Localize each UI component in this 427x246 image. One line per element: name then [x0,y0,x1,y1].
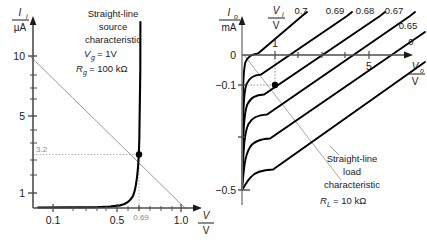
y-tick-label-5: 5 [19,110,25,122]
source-annotation: Straight-line source characteristic V g … [76,8,141,77]
y-axis-unit: µA [14,22,27,33]
rl-symbol: R [320,195,327,206]
x-axis-arrow [193,205,202,212]
x-tick-label-0p1: 0.1 [46,214,61,226]
rl-value: = 10 kΩ [333,195,366,206]
curve-label-0p67: 0.67 [385,5,404,16]
y-tick-label-0: 0 [230,49,236,61]
operating-point-y-label: 3.2 [36,145,48,154]
x-tick-label-5: 5 [366,60,372,72]
rg-symbol: R [76,63,83,74]
x-axis-symbol: V [203,210,211,221]
family-symbol: V [273,5,281,16]
y-axis-title: I i µA [12,7,29,33]
operating-point-marker [272,82,278,88]
y-axis-symbol: I [228,7,231,18]
y-tick-label-1: 1 [19,187,25,199]
y-axis-unit: mA [222,22,237,33]
left-chart-panel: 10 5 1 0.1 0.5 0.69 1.0 3.2 I i µA V V S… [0,0,215,246]
y-axis-subscript: i [26,13,28,20]
curve-label-0p68: 0.68 [356,5,375,16]
x-tick-label-1p0: 1.0 [174,214,189,226]
rg-value: = 100 kΩ [89,63,128,74]
annotation-rg: R g = 100 kΩ [76,63,128,77]
y-axis-subscript: o [234,13,238,20]
y-axis-symbol: I [19,7,22,18]
annotation-line-3: characteristic [85,34,141,45]
annotation-rl: R L = 10 kΩ [320,195,366,208]
rl-subscript: L [327,201,331,208]
curve-label-0p65: 0.65 [399,20,418,31]
x-axis-subscript: o [420,67,424,74]
operating-point-marker [136,151,142,157]
family-parameter-label: V i V [268,5,285,31]
x-axis-unit: V [203,225,210,236]
y-axis-arrow [30,16,37,25]
right-chart-panel: 0 −0.1 −0.5 1 5 I o mA V o V V i V 0.7 0… [212,0,427,246]
vg-value: = 1V [97,48,117,59]
family-unit: V [273,20,280,31]
annotation-line-1: Straight-line [88,8,139,19]
source-load-line [30,56,186,209]
curve-label-0: 0 [408,36,413,47]
x-tick-label-1: 1 [272,37,278,49]
annotation-line-2: load [343,166,361,177]
curve-label-0p69: 0.69 [326,5,345,16]
diode-source-characteristic-chart: 10 5 1 0.1 0.5 0.69 1.0 3.2 I i µA V V S… [0,0,215,246]
curve-label-0p7: 0.7 [294,5,307,16]
annotation-line-3: characteristic [324,179,380,190]
guide-lines [33,155,139,209]
family-subscript: i [282,11,284,18]
load-annotation: Straight-line load characteristic R L = … [320,146,380,208]
y-tick-label-minus0p1: −0.1 [215,79,236,91]
transistor-output-characteristics-chart: 0 −0.1 −0.5 1 5 I o mA V o V V i V 0.7 0… [212,0,427,246]
x-tick-label-0p69: 0.69 [133,213,149,222]
x-axis-unit: V [412,76,419,87]
annotation-vg: V g = 1V [84,48,117,62]
annotation-line-1: Straight-line [327,153,378,164]
y-axis-title: I o mA [219,7,240,33]
x-tick-label-0p5: 0.5 [110,214,125,226]
y-tick-label-minus0p5: −0.5 [215,184,236,196]
x-axis-arrow [404,52,413,59]
rg-subscript: g [83,69,87,77]
annotation-line-2: source [99,21,128,32]
vg-subscript: g [91,54,95,62]
y-tick-label-10: 10 [13,50,25,62]
